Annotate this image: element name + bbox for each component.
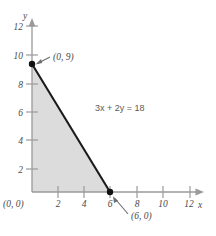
y-tick-label-12: 12 [14, 22, 24, 32]
x-tick-label-8: 8 [135, 199, 140, 209]
y-axis-label: y [22, 11, 28, 21]
x-axis-arrow-icon [196, 189, 205, 196]
y-tick-label-6: 6 [18, 108, 23, 118]
x-tick-label-12: 12 [184, 199, 194, 209]
y-axis-arrow-icon [29, 18, 36, 27]
label-y-intercept: (0, 9) [53, 52, 74, 63]
label-x-intercept: (6, 0) [131, 211, 152, 222]
figure-canvas: 12 10 8 6 4 2 2 4 6 8 10 12 y x (0, 9) (… [0, 0, 216, 236]
x-tick-label-10: 10 [158, 199, 168, 209]
x-tick-label-2: 2 [56, 199, 61, 209]
label-origin: (0, 0) [3, 199, 24, 210]
y-tick-label-10: 10 [14, 51, 24, 61]
y-tick-label-4: 4 [18, 136, 23, 146]
point-marker-y-intercept [29, 61, 35, 67]
label-equation: 3x + 2y = 18 [95, 103, 145, 113]
y-tick-label-2: 2 [18, 165, 23, 175]
coordinate-plot: 12 10 8 6 4 2 2 4 6 8 10 12 y x (0, 9) (… [0, 0, 216, 236]
x-tick-label-6: 6 [108, 199, 113, 209]
callout-arrow-y-intercept-icon [36, 57, 51, 65]
callout-arrow-x-intercept-icon [113, 196, 128, 214]
x-tick-label-4: 4 [82, 199, 87, 209]
point-marker-x-intercept [107, 189, 113, 195]
y-tick-label-8: 8 [18, 80, 23, 90]
x-axis-label: x [197, 200, 203, 210]
